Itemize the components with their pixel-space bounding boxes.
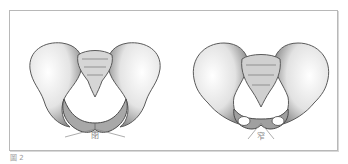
pelvis-illustration-right <box>186 29 336 141</box>
pelvis-illustration-left <box>20 29 170 141</box>
pelvis-label-right: 窄 <box>257 133 265 141</box>
figure-frame: 閉 <box>9 10 338 151</box>
figure-caption: 圖 2 <box>10 154 24 163</box>
pelvis-left-icon <box>20 29 170 141</box>
pelvis-label-left: 閉 <box>91 132 99 140</box>
pelvis-right-icon <box>186 29 336 141</box>
